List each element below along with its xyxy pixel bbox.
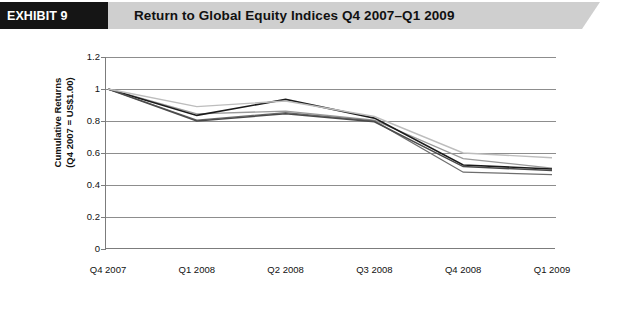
x-axis-tick-label: Q2 2008 (241, 264, 331, 275)
y-axis-tick-label: 1.2 (66, 51, 100, 62)
series-line (108, 89, 552, 168)
y-axis-tick-label: 0.2 (66, 211, 100, 222)
y-axis-tick-labels: 1.210.80.60.40.20 (62, 57, 100, 249)
series-line (108, 89, 552, 171)
y-axis-title: Cumulative Returns (Q4 2007 = US$1.00) (0, 57, 46, 249)
y-axis-tick-label: 0.6 (66, 147, 100, 158)
y-axis-tick-label: 1 (66, 83, 100, 94)
exhibit-tag-label: EXHIBIT 9 (0, 9, 68, 23)
x-axis-tick-label: Q1 2008 (152, 264, 242, 275)
x-axis-tick-label: Q4 2008 (418, 264, 508, 275)
series-lines (105, 57, 555, 249)
exhibit-header: EXHIBIT 9 Return to Global Equity Indice… (0, 2, 630, 29)
exhibit-root: EXHIBIT 9 Return to Global Equity Indice… (0, 0, 630, 315)
x-axis-tick-label: Q3 2008 (329, 264, 419, 275)
exhibit-title: Return to Global Equity Indices Q4 2007–… (134, 2, 455, 29)
y-axis-tick-label: 0 (66, 243, 100, 254)
exhibit-tag: EXHIBIT 9 (0, 2, 108, 29)
series-line (108, 89, 552, 169)
y-axis-tick (101, 249, 106, 250)
y-axis-tick-label: 0.8 (66, 115, 100, 126)
series-line (108, 89, 552, 158)
x-axis-tick-label: Q4 2007 (63, 264, 153, 275)
y-axis-tick-label: 0.4 (66, 179, 100, 190)
chart-container: Cumulative Returns (Q4 2007 = US$1.00) 1… (0, 40, 630, 315)
x-axis-tick-label: Q1 2009 (507, 264, 597, 275)
